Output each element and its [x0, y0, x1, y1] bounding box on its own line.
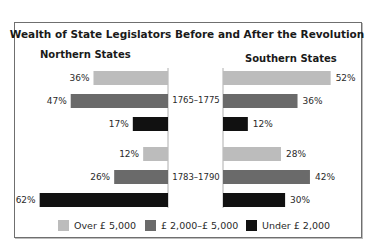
- southern-value-label-1-2: 36%: [303, 96, 323, 106]
- legend-swatch-3: [246, 220, 257, 231]
- northern-value-label-2-2: 26%: [90, 172, 110, 182]
- southern-bar-1-2: [223, 94, 298, 108]
- northern-bar-2-1: [143, 147, 168, 161]
- legend-swatch-2: [145, 220, 156, 231]
- southern-bar-2-3: [223, 193, 285, 207]
- chart: Wealth of State Legislators Before and A…: [0, 0, 374, 252]
- southern-bar-1-1: [223, 71, 331, 85]
- legend-label-2: £ 2,000–£ 5,000: [161, 220, 238, 231]
- period-label-1: 1765–1775: [172, 95, 220, 105]
- northern-value-label-2-3: 62%: [16, 195, 36, 205]
- legend: Over £ 5,000£ 2,000–£ 5,000Under £ 2,000: [58, 220, 330, 231]
- northern-value-label-1-3: 17%: [109, 119, 129, 129]
- northern-bar-1-1: [93, 71, 168, 85]
- southern-bar-2-2: [223, 170, 310, 184]
- legend-swatch-1: [58, 220, 69, 231]
- southern-value-label-1-3: 12%: [253, 119, 273, 129]
- northern-bar-2-3: [40, 193, 168, 207]
- southern-value-label-2-1: 28%: [286, 149, 306, 159]
- panel-title-northern: Northern States: [40, 49, 131, 60]
- bars-layer: 36%47%17%12%26%62%52%36%12%28%42%30%: [16, 68, 356, 208]
- southern-value-label-2-3: 30%: [290, 195, 310, 205]
- southern-value-label-1-1: 52%: [336, 73, 356, 83]
- southern-value-label-2-2: 42%: [315, 172, 335, 182]
- northern-bar-1-2: [71, 94, 168, 108]
- northern-bar-2-2: [114, 170, 168, 184]
- northern-value-label-1-1: 36%: [69, 73, 89, 83]
- northern-value-label-1-2: 47%: [47, 96, 67, 106]
- northern-bar-1-3: [133, 117, 168, 131]
- chart-title: Wealth of State Legislators Before and A…: [10, 28, 364, 40]
- southern-bar-1-3: [223, 117, 248, 131]
- period-label-2: 1783–1790: [172, 172, 220, 182]
- panel-title-southern: Southern States: [245, 53, 337, 64]
- northern-value-label-2-1: 12%: [119, 149, 139, 159]
- legend-label-1: Over £ 5,000: [74, 220, 136, 231]
- southern-bar-2-1: [223, 147, 281, 161]
- legend-label-3: Under £ 2,000: [262, 220, 330, 231]
